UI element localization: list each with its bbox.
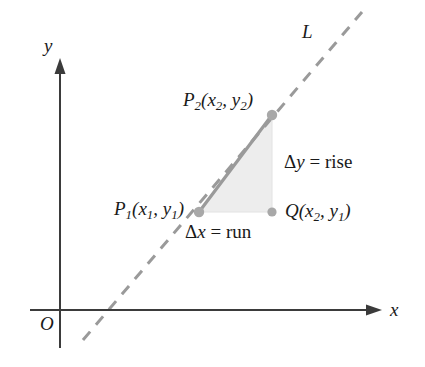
q-x-var: x bbox=[305, 200, 313, 221]
q-y-var: y bbox=[329, 200, 337, 221]
p1-x-var: x bbox=[138, 198, 146, 219]
point-dot-q bbox=[267, 207, 276, 216]
rise-delta-symbol: Δ bbox=[284, 151, 296, 172]
y-axis-label: y bbox=[44, 36, 52, 55]
point-dot-p2 bbox=[267, 110, 277, 120]
p2-name: P bbox=[183, 89, 195, 110]
run-delta-symbol: Δ bbox=[185, 221, 197, 242]
p2-paren-close: ) bbox=[247, 89, 253, 110]
run-equals: = bbox=[206, 221, 226, 242]
p2-x-var: x bbox=[207, 89, 215, 110]
origin-label: O bbox=[40, 314, 54, 333]
run-word: run bbox=[226, 221, 251, 242]
p1-y-var: y bbox=[163, 198, 171, 219]
point-dot-p1 bbox=[194, 207, 204, 217]
rise-word: rise bbox=[325, 151, 352, 172]
diagram-canvas bbox=[0, 0, 425, 367]
slope-diagram: y x O L P2(x2, y2) P1(x1, y1) Q(x2, y1) … bbox=[0, 0, 425, 367]
p1-name: P bbox=[114, 198, 126, 219]
p2-y-var: y bbox=[232, 89, 240, 110]
line-l-label: L bbox=[302, 22, 313, 41]
q-name: Q bbox=[285, 200, 299, 221]
p2-comma: , bbox=[222, 89, 232, 110]
p1-comma: , bbox=[153, 198, 163, 219]
x-axis-arrowhead bbox=[366, 305, 382, 316]
rise-equals: = bbox=[305, 151, 325, 172]
x-axis-label: x bbox=[390, 300, 398, 319]
point-label-p2: P2(x2, y2) bbox=[183, 90, 253, 113]
run-variable: x bbox=[197, 221, 205, 242]
run-annotation: Δx = run bbox=[185, 222, 251, 241]
point-label-q: Q(x2, y1) bbox=[285, 201, 351, 224]
y-axis-arrowhead bbox=[55, 58, 66, 74]
rise-annotation: Δy = rise bbox=[284, 152, 352, 171]
q-paren-close: ) bbox=[344, 200, 350, 221]
p1-paren-close: ) bbox=[178, 198, 184, 219]
line-l-dashed bbox=[83, 12, 362, 340]
rise-variable: y bbox=[296, 151, 304, 172]
point-label-p1: P1(x1, y1) bbox=[114, 199, 184, 222]
